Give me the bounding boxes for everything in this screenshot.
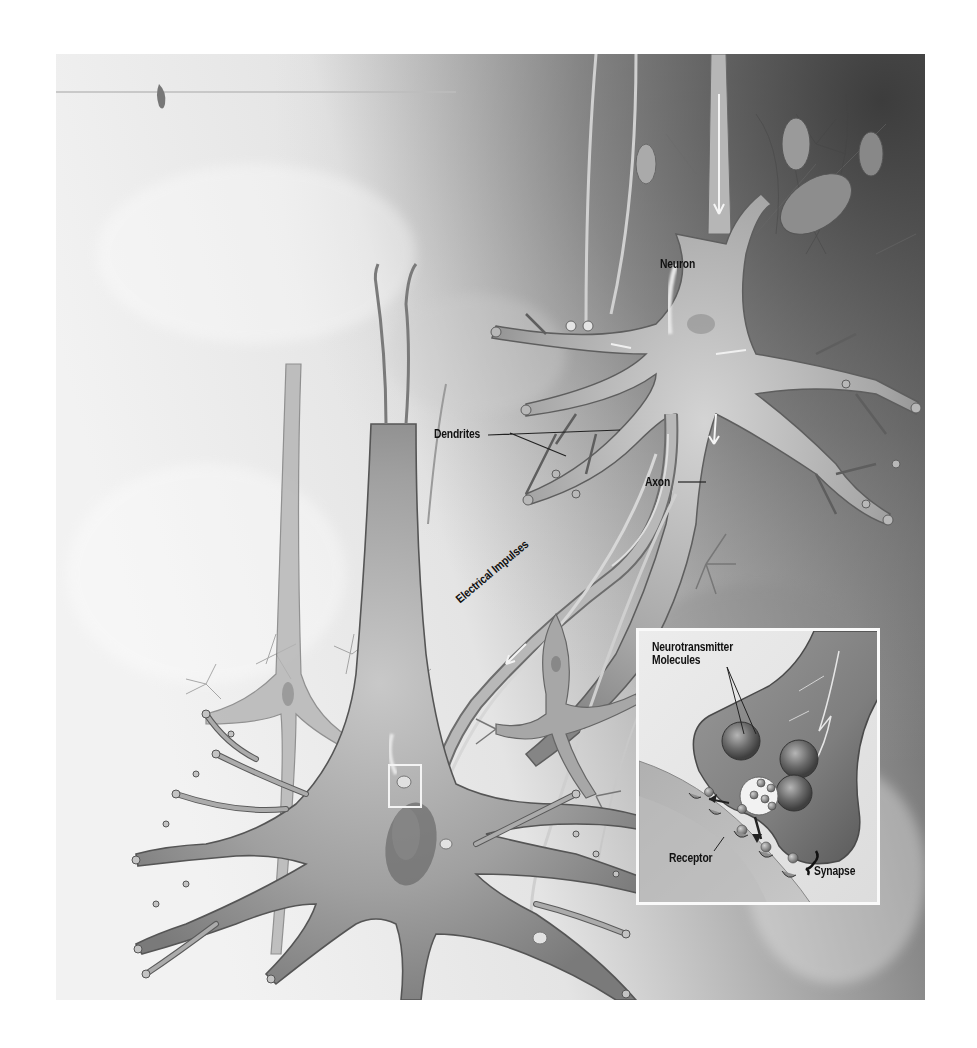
- label-neuron: Neuron: [660, 258, 695, 271]
- axon-leader-line: [678, 476, 718, 488]
- label-receptor: Receptor: [669, 852, 712, 865]
- label-axon: Axon: [645, 476, 670, 489]
- dendrites-leader-lines: [488, 420, 623, 460]
- synapse-inset: Neurotransmitter Molecules Receptor Syna…: [636, 628, 880, 905]
- label-dendrites: Dendrites: [434, 428, 480, 441]
- label-neurotransmitter-line2: Molecules: [652, 654, 700, 667]
- label-synapse: Synapse: [814, 865, 855, 878]
- synapse-callout-box: [388, 764, 422, 808]
